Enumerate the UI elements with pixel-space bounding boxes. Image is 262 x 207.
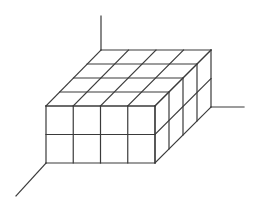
depth-axis	[16, 163, 46, 196]
top-face-grid	[46, 50, 211, 106]
cube-diagram-svg	[0, 0, 262, 207]
right-face-grid	[155, 50, 211, 163]
front-face-grid	[46, 106, 155, 163]
cube-diagram	[0, 0, 262, 207]
